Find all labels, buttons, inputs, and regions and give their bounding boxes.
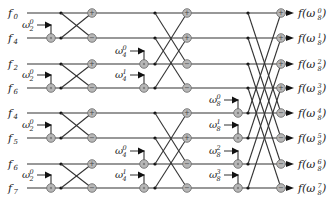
output-close: ) [321, 107, 326, 120]
node-symbol: + [89, 60, 95, 68]
output-close: ) [321, 158, 326, 171]
node-symbol: − [278, 134, 284, 142]
plus-node: + [88, 9, 97, 18]
fft-butterfly-diagram: ω02ω02ω02ω02ω04ω14ω04ω14ω08ω18ω28ω38 +−+… [0, 0, 335, 201]
input-label-5: f5 [7, 132, 19, 147]
plus-node: + [88, 109, 97, 118]
twiddle-2-0: ω02 [22, 168, 55, 193]
plus-node: + [277, 34, 286, 43]
twiddle-sub: 4 [122, 51, 127, 59]
output-text: f(ω [297, 7, 315, 20]
twiddle-sub: 8 [217, 175, 221, 183]
arrow-icon [286, 135, 294, 141]
node-symbol: + [278, 9, 284, 17]
twiddle-sub: 4 [122, 175, 127, 183]
arrow-icon [286, 10, 294, 16]
node-symbol: + [184, 134, 190, 142]
output-label-4: f(ω48) [297, 107, 326, 122]
minus-node: − [88, 84, 97, 93]
multiply-node [234, 134, 243, 143]
twiddle-4-0: ω04 [115, 144, 148, 169]
node-symbol: + [89, 160, 95, 168]
input-sub: 6 [14, 164, 19, 172]
node-dot [237, 163, 239, 165]
minus-node: − [183, 184, 192, 193]
twiddle-8-0: ω08 [209, 93, 242, 118]
input-labels: f0f4f2f6f4f5f6f7 [7, 7, 19, 197]
plus-node: + [183, 34, 192, 43]
output-text: f(ω [297, 58, 315, 71]
node-symbol: − [89, 184, 95, 192]
arrow-icon [286, 35, 294, 41]
input-label-7: f7 [7, 182, 19, 197]
output-close: ) [321, 32, 326, 45]
twiddle-2-0: ω02 [22, 68, 55, 93]
twiddle-sub: 2 [29, 125, 34, 133]
twiddle-8-1: ω18 [209, 118, 242, 143]
input-label-6: f6 [7, 158, 19, 173]
node-symbol: − [89, 84, 95, 92]
input-sub: 4 [13, 113, 18, 121]
node-symbol: + [184, 34, 190, 42]
node-dot [237, 137, 239, 139]
twiddle-sub: 8 [217, 100, 221, 108]
multiply-node [47, 134, 56, 143]
output-text: f(ω [297, 132, 315, 145]
node-symbol: + [278, 34, 284, 42]
multiply-node [47, 184, 56, 193]
output-close: ) [321, 82, 326, 95]
node-dot [50, 37, 52, 39]
arrow-icon [286, 61, 294, 67]
node-symbol: + [184, 109, 190, 117]
twiddle-sub: 2 [29, 25, 34, 33]
output-label-5: f(ω58) [297, 132, 326, 147]
node-dot [237, 112, 239, 114]
node-symbol: + [89, 9, 95, 17]
input-label-2: f2 [7, 58, 19, 73]
output-label-2: f(ω28) [297, 58, 326, 73]
minus-node: − [183, 84, 192, 93]
output-close: ) [321, 7, 326, 20]
twiddle-8-2: ω28 [209, 144, 242, 169]
twiddle-factors: ω02ω02ω02ω02ω04ω14ω04ω14ω08ω18ω28ω38 [22, 18, 242, 193]
minus-node: − [277, 109, 286, 118]
output-close: ) [321, 132, 326, 145]
node-dot [50, 137, 52, 139]
minus-node: − [88, 184, 97, 193]
twiddle-sub: 4 [122, 75, 127, 83]
twiddle-sub: 8 [217, 125, 221, 133]
node-dot [143, 87, 145, 89]
plus-node: + [277, 60, 286, 69]
node-dot [143, 163, 145, 165]
twiddle-8-3: ω38 [209, 168, 242, 193]
minus-node: − [88, 34, 97, 43]
twiddle-sub: 4 [122, 151, 127, 159]
twiddle-4-1: ω14 [115, 168, 148, 193]
node-symbol: + [278, 60, 284, 68]
multiply-node [140, 160, 149, 169]
node-symbol: − [184, 184, 190, 192]
plus-node: + [88, 60, 97, 69]
input-sub: 2 [13, 64, 19, 72]
output-labels: f(ω08)f(ω18)f(ω28)f(ω38)f(ω48)f(ω58)f(ω6… [297, 7, 326, 197]
node-symbol: + [89, 109, 95, 117]
arrow-icon [286, 85, 294, 91]
minus-node: − [277, 134, 286, 143]
twiddle-2-0: ω02 [22, 118, 55, 143]
output-label-1: f(ω18) [297, 32, 326, 47]
node-dot [143, 187, 145, 189]
node-symbol: − [89, 134, 95, 142]
twiddle-sub: 2 [29, 175, 34, 183]
twiddle-sub: 8 [217, 151, 221, 159]
output-text: f(ω [297, 182, 315, 195]
multiply-node [140, 60, 149, 69]
node-symbol: − [278, 160, 284, 168]
node-dot [237, 187, 239, 189]
multiply-node [47, 84, 56, 93]
plus-node: + [88, 160, 97, 169]
twiddle-4-1: ω14 [115, 68, 148, 93]
input-sub: 7 [14, 188, 19, 196]
multiply-node [234, 184, 243, 193]
plus-node: + [277, 84, 286, 93]
multiply-node [234, 109, 243, 118]
